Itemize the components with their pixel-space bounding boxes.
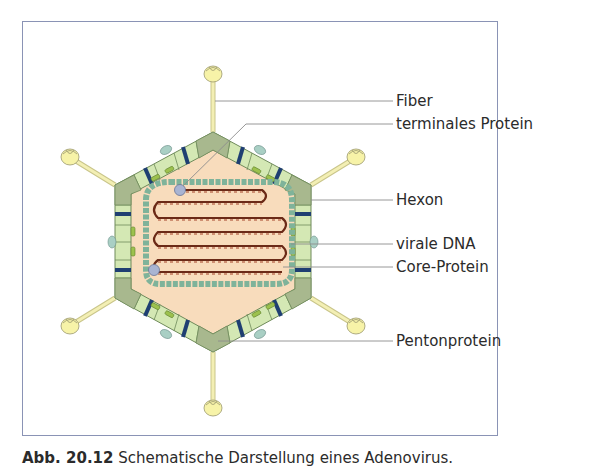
- label-penton-protein: Pentonprotein: [396, 333, 501, 349]
- caption-prefix: Abb. 20.12: [22, 449, 113, 467]
- caption-text: Schematische Darstellung eines Adenoviru…: [118, 449, 453, 467]
- figure-caption: Abb. 20.12 Schematische Darstellung eine…: [22, 449, 453, 467]
- label-fiber: Fiber: [396, 93, 433, 109]
- fiber-knob-icon: [204, 66, 222, 82]
- terminal-protein-icon: [175, 185, 186, 196]
- label-viral-dna: virale DNA: [396, 236, 476, 252]
- label-hexon: Hexon: [396, 192, 443, 208]
- fiber-knob-icon: [347, 318, 365, 334]
- fiber-knob-icon: [61, 149, 79, 165]
- fiber-knob-icon: [347, 149, 365, 165]
- label-terminal-protein: terminales Protein: [396, 116, 533, 132]
- terminal-protein-icon: [149, 265, 160, 276]
- fiber-knob-icon: [61, 318, 79, 334]
- fiber-knob-icon: [204, 400, 222, 416]
- label-core-protein: Core-Protein: [396, 259, 489, 275]
